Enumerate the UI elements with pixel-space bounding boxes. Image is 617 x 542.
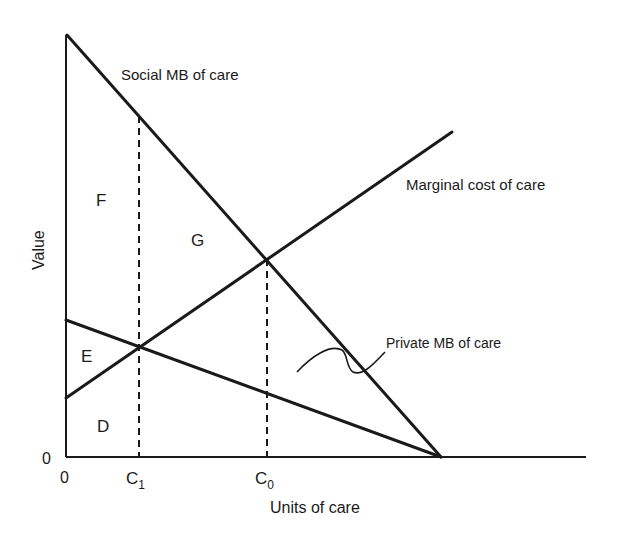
social-mb-label: Social MB of care xyxy=(121,66,239,83)
c0-tick-label: C0 xyxy=(255,469,274,492)
marginal-cost-label: Marginal cost of care xyxy=(406,176,545,193)
y-zero-label: 0 xyxy=(42,450,51,467)
area-g-label: G xyxy=(191,231,204,250)
area-d-label: D xyxy=(97,417,109,436)
social-mb-line xyxy=(67,35,441,457)
x-zero-label: 0 xyxy=(60,469,69,486)
care-diagram: Social MB of care Marginal cost of care … xyxy=(0,0,617,542)
y-axis-title: Value xyxy=(30,230,47,270)
area-f-label: F xyxy=(96,191,106,210)
private-mb-leader xyxy=(297,348,385,372)
x-axis-title: Units of care xyxy=(270,499,360,516)
private-mb-label: Private MB of care xyxy=(386,335,501,351)
marginal-cost-line xyxy=(66,132,452,398)
private-mb-line xyxy=(66,320,441,457)
c1-tick-label: C1 xyxy=(126,469,145,492)
area-e-label: E xyxy=(81,347,92,366)
